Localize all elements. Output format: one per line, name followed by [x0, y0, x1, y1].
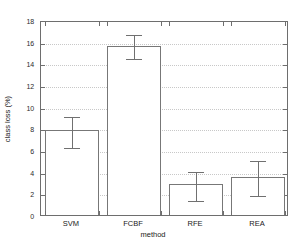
error-bar-cap-upper [250, 161, 266, 162]
error-bar-cap-upper [188, 172, 204, 173]
x-axis-tick-mark [45, 211, 46, 215]
gridline [41, 65, 287, 66]
x-axis-tick-mark [161, 22, 162, 26]
y-axis-tick-mark [283, 130, 287, 131]
x-axis-tick-label-svm: SVM [41, 220, 101, 228]
x-axis-tick-mark [169, 211, 170, 215]
error-bar-cap-lower [250, 196, 266, 197]
y-axis-tick-mark [41, 87, 45, 88]
x-axis-label: method [0, 231, 306, 239]
plot-area [40, 21, 288, 216]
y-axis-tick-label: 18 [0, 18, 34, 25]
bar [107, 46, 160, 215]
error-bar-stem [72, 117, 73, 147]
y-axis-tick-mark [283, 44, 287, 45]
y-axis-tick-label: 16 [0, 39, 34, 46]
y-axis-tick-mark [41, 109, 45, 110]
error-bar-cap-lower [188, 201, 204, 202]
x-axis-tick-mark [223, 22, 224, 26]
x-axis-tick-label-rea: REA [227, 220, 287, 228]
error-bar-stem [134, 35, 135, 59]
gridline [41, 109, 287, 110]
y-axis-tick-mark [283, 109, 287, 110]
x-axis-tick-mark [45, 22, 46, 26]
x-axis-tick-mark [99, 22, 100, 26]
x-axis-tick-mark [161, 211, 162, 215]
y-axis-label: class loss (%) [4, 59, 12, 179]
y-axis-tick-label: 0 [0, 213, 34, 220]
y-axis-tick-mark [41, 65, 45, 66]
x-axis-tick-mark [99, 211, 100, 215]
bar-chart-figure: method 024681012141618class loss (%)SVMF… [0, 0, 306, 249]
gridline [41, 44, 287, 45]
x-axis-tick-label-rfe: RFE [165, 220, 225, 228]
y-axis-tick-mark [283, 65, 287, 66]
y-axis-tick-label: 2 [0, 191, 34, 198]
y-axis-tick-mark [283, 174, 287, 175]
x-axis-tick-mark [231, 22, 232, 26]
y-axis-tick-mark [283, 87, 287, 88]
y-axis-tick-mark [283, 152, 287, 153]
x-axis-tick-mark [231, 211, 232, 215]
error-bar-stem [258, 161, 259, 197]
x-axis-tick-mark [169, 22, 170, 26]
error-bar-cap-upper [64, 117, 80, 118]
x-axis-tick-label-fcbf: FCBF [103, 220, 163, 228]
gridline [41, 87, 287, 88]
x-axis-tick-mark [285, 22, 286, 26]
error-bar-cap-lower [126, 59, 142, 60]
x-axis-tick-mark [285, 211, 286, 215]
error-bar-stem [196, 172, 197, 202]
x-axis-tick-mark [107, 211, 108, 215]
error-bar-cap-lower [64, 148, 80, 149]
error-bar-cap-upper [126, 35, 142, 36]
y-axis-tick-mark [41, 44, 45, 45]
x-axis-tick-mark [107, 22, 108, 26]
x-axis-tick-mark [223, 211, 224, 215]
